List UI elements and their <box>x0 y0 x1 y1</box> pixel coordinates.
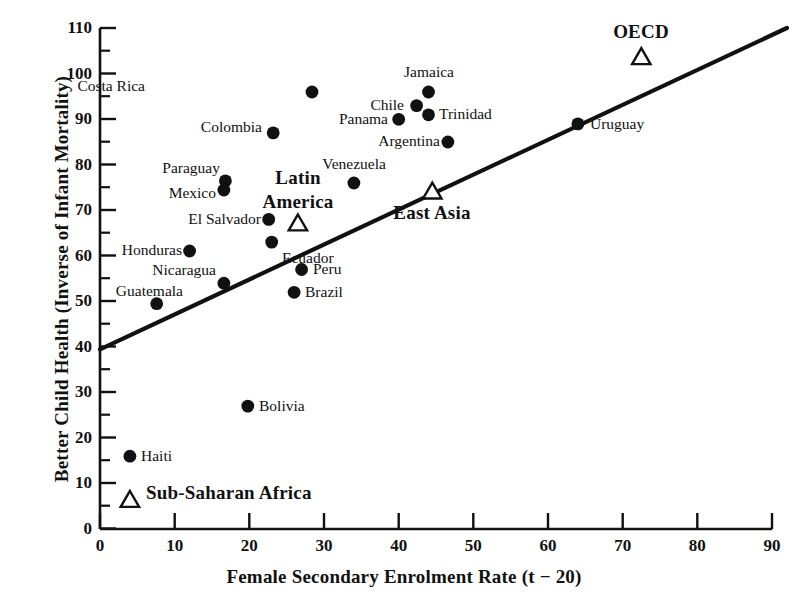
data-point-chile <box>410 99 423 112</box>
data-point-brazil <box>288 286 301 299</box>
data-point-argentina <box>442 136 455 149</box>
x-tick-70: 70 <box>603 536 643 556</box>
point-label-jamaica: Jamaica <box>388 64 470 80</box>
x-tick-10: 10 <box>155 536 195 556</box>
point-label-argentina: Argentina <box>300 133 440 149</box>
point-label-paraguay: Paraguay <box>0 160 220 176</box>
data-point-jamaica <box>422 86 435 99</box>
point-label-bolivia: Bolivia <box>259 398 305 414</box>
point-label-panama: Panama <box>260 111 388 127</box>
point-label-el-salvador: El Salvador <box>0 211 261 227</box>
x-tick-80: 80 <box>677 536 717 556</box>
point-label-colombia: Colombia <box>0 119 262 135</box>
point-label-peru: Peru <box>313 261 341 277</box>
data-point-colombia <box>267 126 280 139</box>
y-tick-110: 110 <box>46 18 92 38</box>
x-tick-50: 50 <box>453 536 493 556</box>
data-point-mexico <box>218 184 231 197</box>
point-label-mexico: Mexico <box>0 185 216 201</box>
data-point-ecuador <box>265 236 278 249</box>
x-tick-60: 60 <box>528 536 568 556</box>
region-label-latin-america-line1: Latin <box>238 168 358 188</box>
data-point-nicaragua <box>218 277 231 290</box>
data-point-panama <box>392 113 405 126</box>
y-tick-10: 10 <box>46 473 92 493</box>
x-tick-30: 30 <box>304 536 344 556</box>
x-tick-20: 20 <box>229 536 269 556</box>
data-point-bolivia <box>241 400 254 413</box>
x-tick-90: 90 <box>752 536 792 556</box>
point-label-nicaragua: Nicaragua <box>0 262 216 278</box>
point-label-chile: Chile <box>300 97 404 113</box>
point-label-haiti: Haiti <box>141 448 172 464</box>
x-axis-major-ticks <box>100 513 772 529</box>
y-tick-30: 30 <box>46 382 92 402</box>
x-tick-0: 0 <box>80 536 120 556</box>
y-tick-40: 40 <box>46 337 92 357</box>
data-point-honduras <box>183 245 196 258</box>
data-point-el-salvador <box>262 213 275 226</box>
region-label-sub-saharan-africa: Sub-Saharan Africa <box>146 483 312 503</box>
point-label-trinidad: Trinidad <box>439 106 492 122</box>
marker-sub-saharan-africa <box>121 491 139 507</box>
point-label-costa-rica: Costa Rica <box>0 78 145 94</box>
data-point-trinidad <box>422 108 435 121</box>
point-label-guatemala: Guatemala <box>0 283 183 299</box>
x-tick-40: 40 <box>379 536 419 556</box>
data-point-uruguay <box>572 118 585 131</box>
x-axis-title: Female Secondary Enrolment Rate (t − 20) <box>0 566 808 588</box>
point-label-uruguay: Uruguay <box>590 116 644 132</box>
region-label-oecd: OECD <box>581 22 701 42</box>
y-tick-0: 0 <box>46 519 92 539</box>
marker-oecd <box>632 48 650 64</box>
region-label-east-asia: East Asia <box>372 203 492 223</box>
axis-lines <box>100 28 772 529</box>
y-tick-20: 20 <box>46 428 92 448</box>
data-point-haiti <box>123 450 136 463</box>
chart-figure: Female Secondary Enrolment Rate (t − 20)… <box>0 0 808 610</box>
region-label-latin-america-line2: America <box>238 192 358 212</box>
point-label-honduras: Honduras <box>0 242 182 258</box>
marker-latin-america <box>289 215 307 231</box>
point-label-brazil: Brazil <box>305 284 343 300</box>
